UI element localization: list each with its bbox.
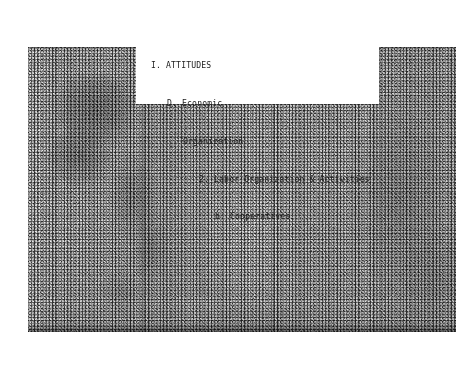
fold-crease-line	[55, 47, 57, 332]
outline-line-2: D. Economic	[151, 97, 370, 110]
caption-card: I. ATTITUDES D. Economic Organization 2.…	[136, 28, 379, 104]
outline-line-4: 2. Labor Organization & Activities	[151, 173, 370, 186]
outline-line-5: b. Cooperatives	[151, 210, 370, 223]
outline-line-1: I. ATTITUDES	[151, 59, 370, 72]
scan-bottom-edge-shadow	[28, 323, 456, 332]
outline-line-3: Organization	[151, 135, 370, 148]
caption-outline-text: I. ATTITUDES D. Economic Organization 2.…	[151, 34, 370, 248]
page-root: I. ATTITUDES D. Economic Organization 2.…	[0, 0, 475, 365]
fold-crease-line	[380, 47, 382, 332]
